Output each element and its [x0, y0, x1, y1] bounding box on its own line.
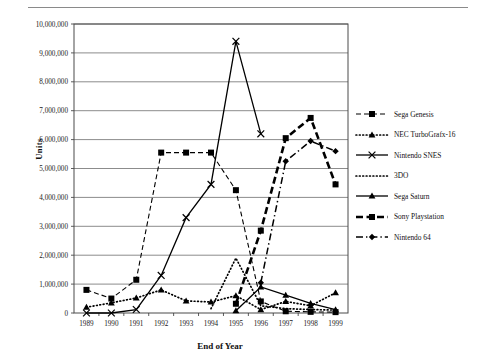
legend-label: 3DO [394, 172, 408, 179]
legend-swatch [355, 107, 389, 121]
chart-page: 01,000,0002,000,0003,000,0004,000,0005,0… [0, 0, 479, 364]
y-axis-tick-label: 9,000,000 [39, 50, 68, 58]
legend-item-sony-playstation: Sony Playstation [355, 207, 479, 228]
legend-label: Sony Playstation [394, 213, 444, 220]
x-axis-title: End of Year [140, 341, 300, 351]
series-sony-playstation [233, 115, 339, 307]
series-sega-genesis [83, 150, 338, 316]
y-axis-tick-label: 2,000,000 [39, 252, 68, 260]
series-line [236, 118, 336, 304]
x-axis-tick-label: 1996 [254, 320, 269, 328]
y-axis-tick-label: 0 [64, 310, 68, 318]
y-axis-tick-label: 8,000,000 [39, 78, 68, 86]
legend-label: Nintendo SNES [394, 152, 441, 159]
series-line [86, 153, 335, 313]
series-line [261, 141, 336, 283]
x-axis-tick-label: 1990 [104, 320, 119, 328]
series-nintendo-64 [258, 138, 339, 286]
legend-item-sega-saturn: Sega Saturn [355, 186, 479, 207]
legend-swatch [355, 169, 389, 183]
y-axis-tick-label: 1,000,000 [39, 281, 68, 289]
legend-swatch [355, 210, 389, 224]
legend-item-3do: 3DO [355, 166, 479, 187]
legend-item-nintendo-64: Nintendo 64 [355, 227, 479, 248]
legend-label: Sega Genesis [394, 111, 434, 118]
series-nintendo-snes [83, 38, 264, 316]
legend-item-sega-genesis: Sega Genesis [355, 104, 479, 125]
x-axis-tick-label: 1994 [204, 320, 219, 328]
x-axis-tick-label: 1995 [229, 320, 244, 328]
x-axis-tick-label: 1989 [79, 320, 94, 328]
y-axis-tick-label: 4,000,000 [39, 194, 68, 202]
legend-item-nintendo-snes: Nintendo SNES [355, 145, 479, 166]
x-axis-tick-label: 1991 [129, 320, 144, 328]
chart-legend: Sega GenesisNEC TurboGrafx-16Nintendo SN… [355, 104, 479, 248]
y-axis-tick-label: 3,000,000 [39, 223, 68, 231]
legend-label: NEC TurboGrafx-16 [394, 131, 455, 138]
legend-item-nec-turbografx-16: NEC TurboGrafx-16 [355, 125, 479, 146]
x-axis-tick-label: 1992 [154, 320, 169, 328]
y-axis-title: Units [34, 119, 44, 179]
legend-swatch [355, 128, 389, 142]
legend-swatch [355, 189, 389, 203]
y-axis-tick-label: 10,000,000 [36, 21, 69, 29]
x-axis-tick-label: 1997 [279, 320, 294, 328]
legend-label: Nintendo 64 [394, 234, 431, 241]
legend-label: Sega Saturn [394, 193, 430, 200]
x-axis-tick-label: 1993 [179, 320, 194, 328]
legend-swatch [355, 148, 389, 162]
x-axis-tick-label: 1998 [303, 320, 318, 328]
legend-swatch [355, 230, 389, 244]
y-axis-tick-label: 7,000,000 [39, 107, 68, 115]
x-axis-tick-label: 1999 [328, 320, 343, 328]
